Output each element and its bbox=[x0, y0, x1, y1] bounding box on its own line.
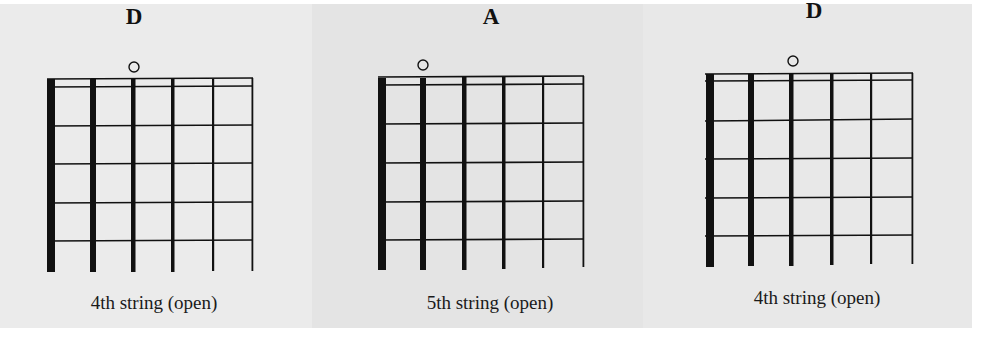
chord-caption: 5th string (open) bbox=[427, 292, 554, 314]
chord-diagram-panel-2: A 5th string (open) bbox=[312, 4, 643, 328]
chord-diagram-panel-3: D 4th string (open) bbox=[643, 4, 972, 328]
chord-diagram-panel-1: D 4th string (open) bbox=[0, 4, 312, 328]
fretboard-grid bbox=[643, 4, 972, 328]
fretboard-grid bbox=[0, 4, 312, 328]
open-string-marker-icon bbox=[129, 62, 139, 72]
fretboard-grid bbox=[312, 4, 643, 328]
chord-caption: 4th string (open) bbox=[91, 292, 218, 314]
open-string-marker-icon bbox=[788, 56, 798, 66]
chord-caption: 4th string (open) bbox=[754, 287, 881, 309]
open-string-marker-icon bbox=[418, 60, 428, 70]
